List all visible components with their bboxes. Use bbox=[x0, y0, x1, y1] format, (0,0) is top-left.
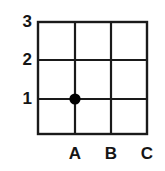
coordinate-grid-figure: 3 2 1 A B C bbox=[0, 0, 165, 171]
y-axis-label-3: 3 bbox=[12, 13, 32, 30]
y-axis-label-2: 2 bbox=[12, 51, 32, 68]
grid-outer-border bbox=[38, 22, 147, 134]
x-axis-label-a: A bbox=[64, 145, 86, 162]
y-axis-label-1: 1 bbox=[12, 90, 32, 107]
x-axis-label-b: B bbox=[100, 145, 122, 162]
x-axis-label-c: C bbox=[136, 145, 158, 162]
data-point-marker bbox=[69, 93, 80, 104]
